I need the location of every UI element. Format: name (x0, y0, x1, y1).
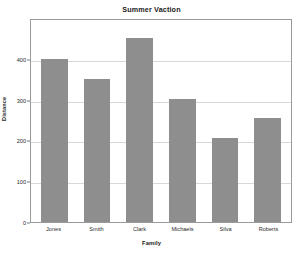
x-axis-tick-group: JonesSmithClarkMichaelsSilvaRoberts (30, 226, 292, 232)
bar (254, 118, 280, 222)
bar-slot (76, 20, 119, 222)
bar (169, 99, 195, 222)
y-tick-label: 100 (17, 179, 26, 185)
x-tick-label: Roberts (247, 226, 290, 232)
bar-slot (204, 20, 247, 222)
chart-title: Summer Vaction (0, 5, 303, 14)
y-tick-label: 0 (23, 220, 26, 226)
bar-slot (246, 20, 289, 222)
bar (212, 138, 238, 222)
bar-slot (161, 20, 204, 222)
plot-area (30, 19, 292, 223)
x-tick-label: Michaels (161, 226, 204, 232)
y-axis-tick-group: 0100200300400 (0, 19, 30, 223)
x-tick-label: Jones (32, 226, 75, 232)
x-tick-label: Smith (75, 226, 118, 232)
x-tick-label: Clark (118, 226, 161, 232)
bar-slot (33, 20, 76, 222)
x-axis-label: Family (0, 240, 303, 246)
bar (126, 38, 152, 222)
y-tick-label: 400 (17, 57, 26, 63)
x-tick-label: Silva (204, 226, 247, 232)
y-tick-label: 200 (17, 138, 26, 144)
bars-layer (31, 20, 291, 222)
bar (84, 79, 110, 222)
bar-chart-figure: Summer Vaction Distance 0100200300400 Jo… (0, 0, 303, 261)
bar (41, 59, 67, 222)
y-tick-label: 300 (17, 98, 26, 104)
bar-slot (118, 20, 161, 222)
